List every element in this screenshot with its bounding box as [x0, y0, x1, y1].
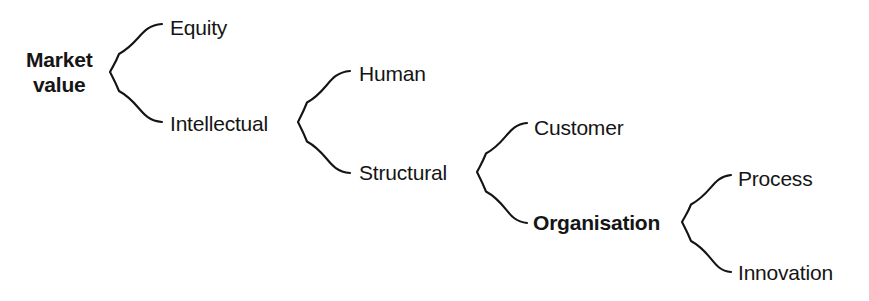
node-intellectual[interactable]: Intellectual: [170, 111, 268, 136]
brace-curve-brace-organisation: [682, 175, 731, 272]
node-human[interactable]: Human: [359, 61, 426, 86]
brace-layer: [0, 0, 869, 301]
brace-hierarchy-diagram: Market value Equity Intellectual Human S…: [0, 0, 869, 301]
node-customer[interactable]: Customer: [534, 115, 623, 140]
brace-curve-brace-market-value: [110, 24, 162, 122]
node-market-value-line1: Market: [26, 47, 93, 72]
brace-curve-brace-intellectual: [298, 71, 350, 173]
node-market-value[interactable]: Market value: [26, 47, 93, 97]
node-organisation[interactable]: Organisation: [533, 210, 660, 235]
node-innovation[interactable]: Innovation: [738, 260, 833, 285]
node-process[interactable]: Process: [738, 166, 812, 191]
brace-curve-brace-structural: [477, 123, 527, 223]
node-structural[interactable]: Structural: [359, 160, 447, 185]
node-market-value-line2: value: [26, 72, 93, 97]
node-equity[interactable]: Equity: [170, 15, 227, 40]
